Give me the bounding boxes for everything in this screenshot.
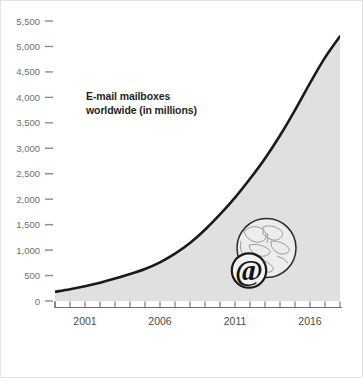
x-axis bbox=[55, 302, 342, 309]
y-tick-label: 1,500 bbox=[16, 219, 40, 230]
chart-plot-area: 05001,0001,5002,0002,5003,0003,5004,0004… bbox=[1, 1, 363, 378]
y-axis-ticks bbox=[45, 21, 53, 301]
y-tick-label: 5,500 bbox=[16, 16, 40, 27]
y-tick-label: 3,000 bbox=[16, 143, 40, 154]
y-tick-label: 4,000 bbox=[16, 92, 40, 103]
x-tick-label: 2006 bbox=[148, 315, 172, 327]
area-series bbox=[55, 36, 340, 301]
y-tick-label: 5,000 bbox=[16, 41, 40, 52]
y-tick-label: 2,000 bbox=[16, 194, 40, 205]
y-tick-label: 3,500 bbox=[16, 117, 40, 128]
y-tick-label: 2,500 bbox=[16, 168, 40, 179]
y-tick-label: 4,500 bbox=[16, 66, 40, 77]
at-symbol-glyph: @ bbox=[235, 253, 263, 286]
x-tick-label: 2001 bbox=[73, 315, 97, 327]
chart-title-line-1: E-mail mailboxes bbox=[86, 89, 256, 103]
x-tick-label: 2016 bbox=[298, 315, 322, 327]
x-axis-labels: 2001200620112016 bbox=[73, 315, 322, 327]
y-axis-labels: 05001,0001,5002,0002,5003,0003,5004,0004… bbox=[16, 16, 40, 307]
area-fill bbox=[55, 36, 340, 301]
x-axis-ticks bbox=[55, 302, 340, 308]
chart-title: E-mail mailboxes worldwide (in millions) bbox=[86, 89, 256, 117]
y-tick-label: 1,000 bbox=[16, 245, 40, 256]
x-tick-label: 2011 bbox=[224, 315, 247, 327]
chart-title-line-2: worldwide (in millions) bbox=[86, 103, 256, 117]
y-tick-label: 500 bbox=[24, 270, 40, 281]
chart-card: 05001,0001,5002,0002,5003,0003,5004,0004… bbox=[0, 0, 363, 378]
y-tick-label: 0 bbox=[35, 296, 40, 307]
